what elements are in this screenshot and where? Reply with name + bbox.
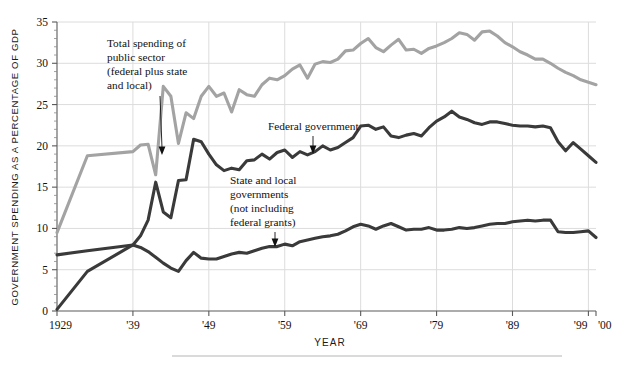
x-axis-ticks [57, 311, 596, 316]
y-tick-label: 25 [37, 99, 49, 111]
x-axis-title: YEAR [314, 337, 346, 348]
annotation-state-local: State and local governments (not includi… [230, 174, 297, 247]
series-line-state-local [57, 220, 596, 271]
series-line-federal-government [57, 111, 596, 309]
annotation-total-spending-line-1: Total spending of [107, 37, 186, 49]
line-chart-svg: 05101520253035 1929'39'49'59'69'79'89'99… [0, 0, 624, 369]
annotation-state-local-line-1: State and local [230, 174, 297, 186]
x-tick-label: '59 [278, 319, 292, 331]
annotation-total-spending-arrowhead [159, 147, 166, 156]
x-tick-label: '99 [574, 319, 588, 331]
chart-figure: 05101520253035 1929'39'49'59'69'79'89'99… [0, 0, 624, 369]
y-tick-label: 15 [37, 181, 49, 193]
y-tick-label: 10 [37, 222, 49, 234]
x-tick-label: '89 [506, 319, 520, 331]
y-axis-ticks [52, 22, 57, 311]
x-tick-label: '39 [126, 319, 140, 331]
x-tick-label: '00 [598, 319, 612, 331]
x-tick-label: 1929 [49, 319, 72, 331]
annotation-state-local-line-4: federal grants) [230, 216, 296, 229]
annotation-total-spending: Total spending of public sector (federal… [107, 37, 187, 155]
y-tick-label: 30 [37, 57, 49, 69]
y-tick-label: 0 [42, 305, 48, 317]
y-tick-label: 20 [37, 140, 49, 152]
x-tick-label: '79 [430, 319, 444, 331]
y-tick-label: 5 [42, 264, 48, 276]
annotation-federal-government: Federal government [268, 120, 360, 154]
annotation-state-local-line-3: (not including [230, 202, 294, 215]
annotation-total-spending-line-4: and local) [107, 79, 152, 92]
annotation-total-spending-line-3: (federal plus state [107, 65, 187, 78]
annotation-federal-government-line-1: Federal government [268, 120, 360, 132]
x-tick-label: '69 [354, 319, 368, 331]
annotation-total-spending-line-2: public sector [107, 51, 165, 63]
y-axis-title: GOVERNMENT SPENDING AS A PERCENTAGE OF G… [9, 29, 20, 306]
annotation-state-local-line-2: governments [230, 188, 288, 200]
x-axis-tick-labels: 1929'39'49'59'69'79'89'99'00 [49, 319, 612, 331]
y-axis-tick-labels: 05101520253035 [37, 16, 49, 317]
y-tick-label: 35 [37, 16, 49, 28]
x-tick-label: '49 [202, 319, 216, 331]
